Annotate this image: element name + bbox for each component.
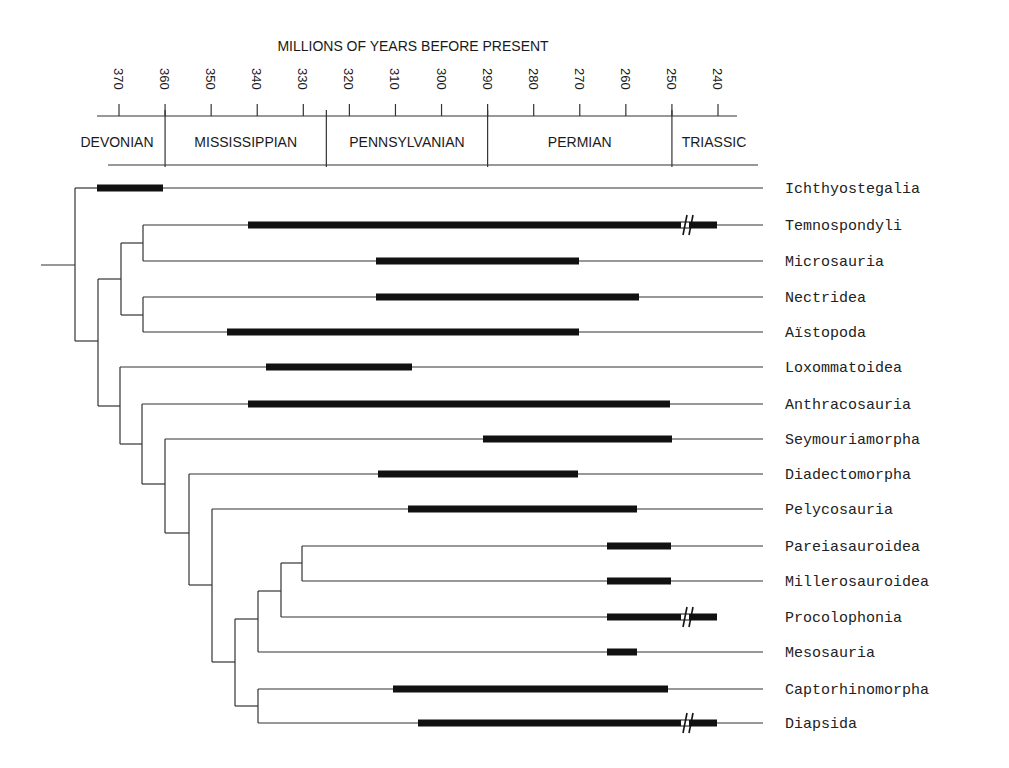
phylogeny-svg: MILLIONS OF YEARS BEFORE PRESENT 3703603… <box>0 0 1009 768</box>
tick-label: 340 <box>249 68 264 90</box>
taxon-row-microsauria: Microsauria <box>376 254 884 271</box>
taxon-label: Millerosauroidea <box>785 574 929 591</box>
tick-label: 360 <box>157 68 172 90</box>
taxon-row-anthracosauria: Anthracosauria <box>248 397 911 414</box>
axis-title: MILLIONS OF YEARS BEFORE PRESENT <box>277 38 549 54</box>
taxon-label: Loxommatoidea <box>785 360 902 377</box>
tick-label: 260 <box>618 68 633 90</box>
taxon-label: Microsauria <box>785 254 884 271</box>
taxon-label: Diapsida <box>785 716 857 733</box>
taxon-row-ichthyostegalia: Ichthyostegalia <box>97 181 920 198</box>
taxon-row-diapsida: Diapsida <box>418 713 857 733</box>
taxon-row-nectridea: Nectridea <box>376 290 866 307</box>
taxon-row-seymouriamorpha: Seymouriamorpha <box>483 432 920 449</box>
taxon-label: Captorhinomorpha <box>785 682 929 699</box>
period-group: DEVONIANMISSISSIPPIANPENNSYLVANIANPERMIA… <box>80 110 746 167</box>
taxon-label: Diadectomorpha <box>785 467 911 484</box>
tick-label: 370 <box>111 68 126 90</box>
taxon-label: Nectridea <box>785 290 866 307</box>
period-label-pennsylvanian: PENNSYLVANIAN <box>349 134 464 150</box>
taxon-label: Pelycosauria <box>785 502 893 519</box>
taxon-label: Aïstopoda <box>785 325 866 342</box>
taxon-row-millerosauroidea: Millerosauroidea <box>607 574 929 591</box>
taxon-row-captorhinomorpha: Captorhinomorpha <box>393 682 929 699</box>
taxon-label: Seymouriamorpha <box>785 432 920 449</box>
period-label-triassic: TRIASSIC <box>682 134 747 150</box>
taxon-row-pelycosauria: Pelycosauria <box>408 502 893 519</box>
taxon-row-diadectomorpha: Diadectomorpha <box>378 467 911 484</box>
phylogeny-figure: MILLIONS OF YEARS BEFORE PRESENT 3703603… <box>0 0 1009 768</box>
taxon-label: Ichthyostegalia <box>785 181 920 198</box>
taxon-row-pareiasauroidea: Pareiasauroidea <box>607 539 920 556</box>
taxon-row-mesosauria: Mesosauria <box>607 645 875 662</box>
tick-group: 3703603503403303203103002902802702602502… <box>111 68 725 116</box>
tick-label: 300 <box>434 68 449 90</box>
tick-label: 290 <box>480 68 495 90</box>
tick-label: 270 <box>572 68 587 90</box>
period-label-permian: PERMIAN <box>548 134 612 150</box>
tick-label: 240 <box>710 68 725 90</box>
tick-label: 250 <box>664 68 679 90</box>
taxon-label: Temnospondyli <box>785 218 902 235</box>
time-scale-header: MILLIONS OF YEARS BEFORE PRESENT 3703603… <box>80 38 758 167</box>
taxon-label: Procolophonia <box>785 610 902 627</box>
taxon-label: Anthracosauria <box>785 397 911 414</box>
tick-label: 310 <box>387 68 402 90</box>
tick-label: 350 <box>203 68 218 90</box>
tick-label: 280 <box>526 68 541 90</box>
taxon-label: Pareiasauroidea <box>785 539 920 556</box>
taxon-range-group: IchthyostegaliaTemnospondyliMicrosauriaN… <box>97 181 929 733</box>
period-label-devonian: DEVONIAN <box>80 134 153 150</box>
taxon-row-astopoda: Aïstopoda <box>227 325 866 342</box>
tick-label: 330 <box>295 68 310 90</box>
taxon-row-loxommatoidea: Loxommatoidea <box>266 360 902 377</box>
taxon-row-procolophonia: Procolophonia <box>607 607 902 627</box>
taxon-label: Mesosauria <box>785 645 875 662</box>
tick-label: 320 <box>341 68 356 90</box>
taxon-row-temnospondyli: Temnospondyli <box>248 215 902 235</box>
cladogram <box>41 188 607 723</box>
period-label-mississippian: MISSISSIPPIAN <box>194 134 297 150</box>
